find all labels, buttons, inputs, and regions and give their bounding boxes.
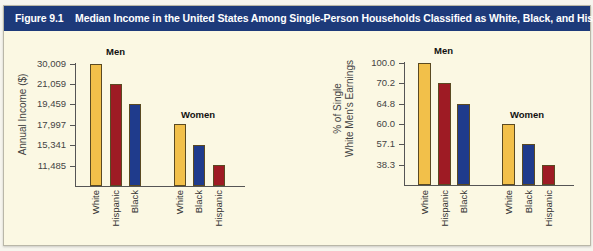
x-label: Black — [458, 190, 469, 250]
x-label: Black — [523, 190, 534, 250]
bar-women-hispanic — [542, 165, 555, 185]
y-tick-label: 100.0 — [345, 58, 395, 68]
bar-men-hispanic — [110, 84, 122, 186]
group-label-women: Women — [510, 109, 544, 120]
y-tick-label: 57.1 — [345, 139, 395, 149]
bar-men-hispanic — [438, 83, 451, 185]
y-tick — [70, 84, 76, 85]
x-label: Hispanic — [213, 190, 224, 250]
bar-women-black — [193, 145, 205, 186]
bar-women-white — [174, 124, 186, 186]
y-tick — [70, 145, 76, 146]
x-label: Hispanic — [543, 190, 554, 250]
bar-women-hispanic — [213, 165, 225, 186]
x-label: Black — [193, 190, 204, 250]
y-axis-label-line1: % of Single — [332, 59, 343, 159]
group-label-women: Women — [181, 109, 215, 120]
bar-men-black — [457, 104, 470, 185]
x-axis-line — [404, 185, 574, 186]
bar-women-white — [502, 124, 515, 185]
y-tick — [70, 166, 76, 167]
figure-title: Median Income in the United States Among… — [75, 12, 593, 24]
x-label: White — [90, 190, 101, 250]
y-tick-label: 17,997 — [16, 120, 66, 130]
y-tick — [70, 64, 76, 65]
x-label: Hispanic — [110, 190, 121, 250]
figure-header: Figure 9.1 Median Income in the United S… — [4, 6, 590, 31]
x-label: Black — [129, 190, 140, 250]
group-label-men: Men — [434, 45, 453, 56]
y-tick-label: 21,059 — [16, 79, 66, 89]
group-label-men: Men — [106, 46, 125, 57]
y-tick — [70, 125, 76, 126]
y-tick — [399, 165, 405, 166]
y-tick-label: 15,341 — [16, 140, 66, 150]
y-tick-label: 11,485 — [16, 161, 66, 171]
y-tick — [399, 83, 405, 84]
x-label: White — [419, 190, 430, 250]
y-tick-label: 60.0 — [345, 119, 395, 129]
y-tick — [399, 144, 405, 145]
y-tick — [399, 104, 405, 105]
x-label: White — [503, 190, 514, 250]
y-tick-label: 64.8 — [345, 99, 395, 109]
bar-men-white — [418, 63, 431, 185]
x-axis-line — [75, 186, 245, 187]
bar-men-white — [90, 64, 102, 186]
y-tick-label: 30,009 — [16, 59, 66, 69]
y-tick-label: 19,459 — [16, 99, 66, 109]
x-label: Hispanic — [439, 190, 450, 250]
bar-women-black — [522, 144, 535, 185]
y-tick — [70, 104, 76, 105]
y-tick-label: 38.3 — [345, 160, 395, 170]
bar-men-black — [129, 104, 141, 186]
y-tick — [399, 124, 405, 125]
y-tick-label: 70.2 — [345, 78, 395, 88]
figure-number: Figure 9.1 — [15, 12, 64, 24]
y-tick — [399, 63, 405, 64]
x-label: White — [174, 190, 185, 250]
